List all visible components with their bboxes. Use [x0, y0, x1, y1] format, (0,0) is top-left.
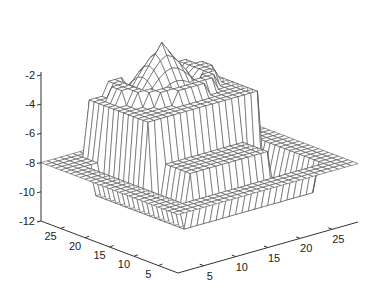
- z-tick-mark: [37, 192, 41, 193]
- y-tick-mark: [134, 255, 138, 256]
- y-axis-ticks: 510152025: [44, 227, 162, 280]
- y-tick-label: 10: [118, 258, 130, 270]
- x-tick-label: 25: [332, 233, 344, 245]
- z-tick-mark: [37, 104, 41, 105]
- z-tick-label: -10: [19, 186, 35, 198]
- x-tick-label: 5: [207, 270, 213, 282]
- y-tick-label: 5: [145, 268, 151, 280]
- z-tick-mark: [37, 75, 41, 76]
- x-tick-mark: [264, 246, 268, 248]
- y-tick-mark: [158, 264, 162, 266]
- x-tick-mark: [232, 255, 236, 257]
- x-axis-ticks: 510152025: [200, 228, 345, 282]
- surface-mesh: [41, 42, 358, 229]
- z-tick-label: -4: [25, 98, 35, 110]
- x-tick-mark: [328, 228, 332, 230]
- z-tick-label: -12: [19, 215, 35, 227]
- y-tick-mark: [61, 227, 65, 229]
- y-tick-mark: [85, 236, 89, 238]
- z-tick-label: -2: [25, 69, 35, 81]
- z-tick-mark: [37, 163, 41, 164]
- x-tick-mark: [200, 264, 204, 266]
- z-tick-label: -6: [25, 127, 35, 139]
- x-tick-mark: [296, 237, 300, 239]
- y-tick-label: 25: [44, 230, 56, 242]
- surface-plot: -2-4-6-8-10-12 510152025 510152025: [0, 0, 378, 292]
- z-tick-label: -8: [25, 157, 35, 169]
- z-tick-mark: [37, 221, 41, 222]
- x-tick-label: 10: [236, 261, 248, 273]
- x-tick-label: 20: [300, 242, 312, 254]
- z-tick-mark: [37, 133, 41, 134]
- z-axis-ticks: -2-4-6-8-10-12: [19, 69, 41, 227]
- y-tick-label: 15: [93, 249, 105, 261]
- x-tick-label: 15: [268, 252, 280, 264]
- y-tick-mark: [110, 246, 114, 248]
- y-tick-label: 20: [69, 240, 81, 252]
